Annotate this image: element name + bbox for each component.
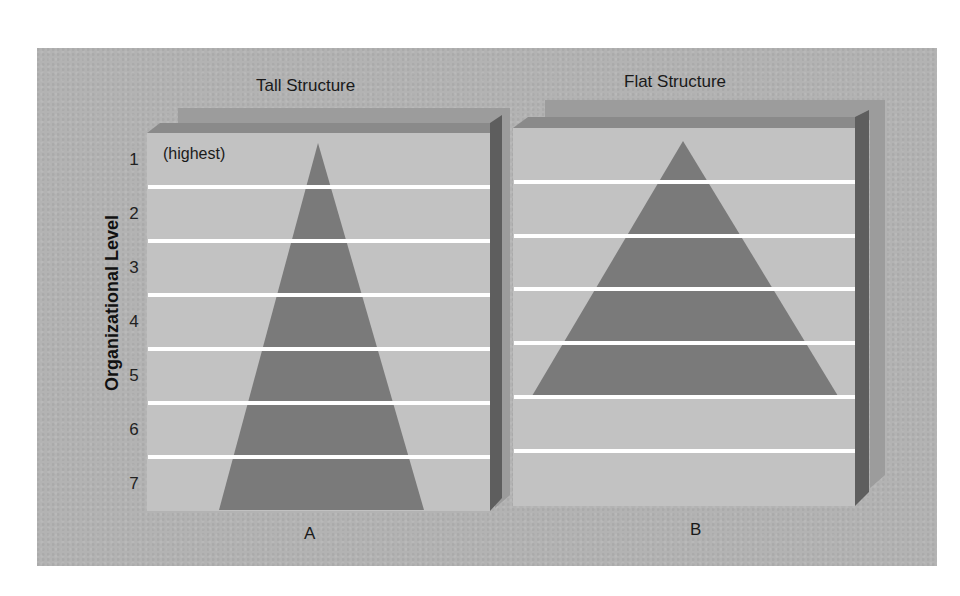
panel-b-side-edge (855, 110, 869, 506)
level-tick-7: 7 (124, 474, 144, 494)
level-tick-4: 4 (124, 312, 144, 332)
level-tick-5: 5 (124, 366, 144, 386)
panel-a-side-edge (490, 115, 502, 511)
tall-structure-title: Tall Structure (256, 76, 355, 96)
level-tick-1: 1 (124, 150, 144, 170)
panel-a-top-edge (147, 123, 490, 133)
y-axis-label: Organizational Level (102, 215, 123, 391)
flat-structure-title: Flat Structure (624, 72, 726, 92)
panel-b-top-edge (513, 117, 868, 128)
diagram-graphics (0, 0, 960, 596)
level-tick-2: 2 (124, 204, 144, 224)
panel-a-letter: A (304, 524, 315, 544)
level-tick-6: 6 (124, 420, 144, 440)
highest-note: (highest) (163, 145, 225, 163)
level-tick-3: 3 (124, 258, 144, 278)
panel-b-letter: B (690, 520, 701, 540)
